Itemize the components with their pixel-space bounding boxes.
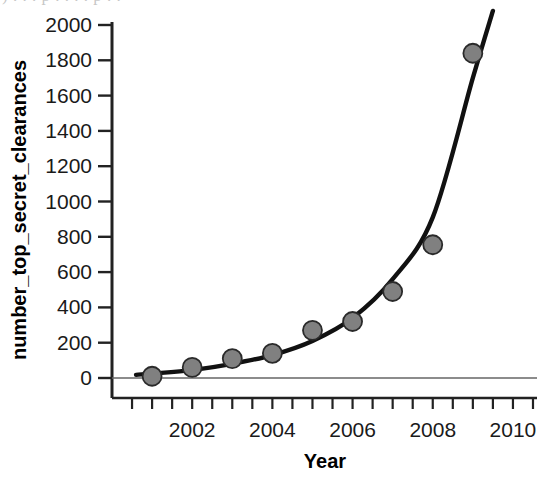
y-axis-tick-label: 0 [80,366,92,389]
data-point-group [143,44,483,386]
y-axis-tick-label: 2000 [45,13,92,36]
y-axis-tick-label: 400 [57,295,92,318]
y-axis-tick-label: 1000 [45,190,92,213]
y-axis-title: number_top_secret_clearances [8,60,30,360]
x-axis-tick-label: 2010 [490,418,537,441]
chart-figure: ) . . . p . . . . p . . 0200400600800100… [0,0,545,490]
data-point-marker [263,344,282,363]
data-point-marker [423,235,442,254]
data-point-marker [463,44,482,63]
cropped-caption-remnant: ) . . . p . . . . p . . [0,0,545,10]
y-axis-tick-label: 600 [57,260,92,283]
y-axis-tick-mark-group [98,25,112,378]
x-axis-tick-label: 2006 [329,418,376,441]
x-axis-tick-mark-group [132,398,533,409]
data-point-marker [383,282,402,301]
x-axis-tick-label: 2004 [249,418,296,441]
x-axis-tick-label-group: 20022004200620082010 [169,418,536,441]
y-axis-tick-label: 200 [57,331,92,354]
x-axis-tick-label: 2002 [169,418,216,441]
x-axis-title: Year [304,450,346,472]
y-axis-tick-label: 1800 [45,48,92,71]
cropped-caption-text: ) . . . p . . . . p . . [2,0,121,5]
data-point-marker [143,367,162,386]
data-point-marker [223,349,242,368]
y-axis-tick-label: 1400 [45,119,92,142]
data-point-marker [343,312,362,331]
x-axis-tick-label: 2008 [409,418,456,441]
data-point-marker [183,358,202,377]
y-axis-tick-label: 1200 [45,154,92,177]
y-axis-tick-label: 1600 [45,84,92,107]
y-axis-tick-label: 800 [57,225,92,248]
y-axis-tick-label-group: 0200400600800100012001400160018002000 [45,13,92,389]
scatter-plot-svg: 0200400600800100012001400160018002000 20… [0,0,545,490]
data-point-marker [303,321,322,340]
